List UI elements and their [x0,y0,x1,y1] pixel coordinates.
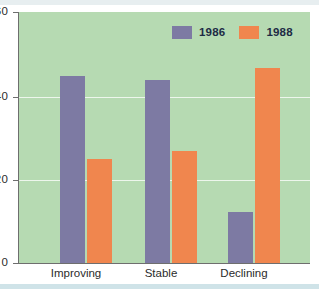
y-tick-0 [13,263,19,264]
y-axis-line [18,12,19,264]
x-axis-label-stable: Stable [121,268,201,280]
bottom-border-strip [0,284,319,289]
bar-chart-figure: 60 40 20 0 Improving Stable Declining 19… [0,0,319,289]
bar-1986-stable [145,80,170,263]
y-axis-label-0: 0 [0,257,8,269]
x-axis-label-improving: Improving [36,268,116,280]
y-axis-label-20: 20 [0,174,8,186]
bar-1988-improving [87,159,112,263]
bar-1986-improving [60,76,85,263]
y-tick-40 [13,97,19,98]
y-axis-label-40: 40 [0,91,8,103]
plot-area [19,12,310,263]
top-border-strip [0,0,319,5]
x-axis-label-declining: Declining [204,268,284,280]
legend-label-1986: 1986 [199,27,225,39]
legend-item-1986: 1986 [172,26,225,39]
legend-label-1988: 1988 [266,27,292,39]
legend-swatch-1986-icon [172,26,192,39]
legend-swatch-1988-icon [239,26,259,39]
bar-1986-declining [228,212,253,263]
chart-legend: 1986 1988 [172,26,293,39]
y-tick-20 [13,180,19,181]
y-axis-label-60: 60 [0,6,8,18]
y-tick-60 [13,12,19,13]
bar-1988-declining [255,68,280,263]
x-axis-line [18,263,310,264]
legend-item-1988: 1988 [239,26,292,39]
bar-1988-stable [172,151,197,263]
